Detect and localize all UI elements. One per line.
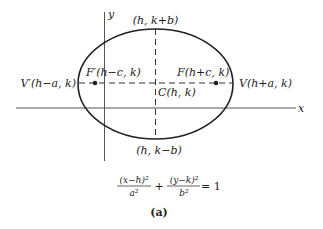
center-label: C(h, k) [158, 86, 196, 99]
top-point-label: (h, k+b) [133, 14, 179, 27]
equation-term1-denominator: a² [130, 188, 139, 198]
ellipse-diagram: y x (h, k+b) (h, k−b) V′(h−a, k) V(h+a, … [0, 0, 323, 229]
right-vertex-label: V(h+a, k) [239, 77, 292, 90]
equation-plus: + [154, 180, 163, 193]
x-axis-label: x [298, 102, 305, 115]
equation-rhs: = 1 [201, 180, 221, 193]
y-axis-label: y [107, 8, 115, 21]
bottom-point-label: (h, k−b) [136, 144, 182, 157]
equation-term2-denominator: b² [179, 188, 189, 198]
figure-caption: (a) [150, 206, 168, 219]
equation-term1-numerator: (x−h)² [119, 175, 148, 185]
focus-right-dot [214, 81, 219, 86]
focus-left-dot [93, 81, 98, 86]
left-focus-label: F′(h−c, k) [85, 66, 141, 79]
left-vertex-label: V′(h−a, k) [20, 77, 76, 90]
equation-term2-numerator: (y−k)² [170, 175, 199, 185]
right-focus-label: F(h+c, k) [176, 66, 229, 79]
